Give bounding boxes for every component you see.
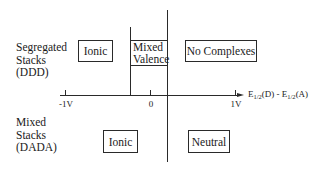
axis-label-subscript: 1/2 [287, 93, 295, 100]
row-label-line: (DADA) [16, 141, 57, 154]
row-label-line: Stacks [16, 54, 67, 67]
region-label: Neutral [192, 136, 226, 148]
x-axis-line [60, 95, 238, 96]
region-label-line: Valence [133, 53, 169, 65]
region-label: Ionic [109, 136, 133, 148]
region-ionic-segregated: Ionic [78, 40, 113, 62]
region-label: No Complexes [187, 45, 256, 57]
region-label: Ionic [84, 45, 108, 57]
tick-minus-1v [65, 90, 66, 95]
row-label-line: (DDD) [16, 66, 67, 79]
row-label-line: Segregated [16, 41, 67, 54]
tick-label: 1V [231, 99, 242, 109]
tick-0 [150, 90, 151, 95]
axis-label-part: (D) - E [262, 89, 288, 99]
region-ionic-mixed: Ionic [103, 130, 138, 153]
x-axis-arrow-icon [237, 93, 244, 97]
tick-label: 0 [149, 99, 154, 109]
region-no-complexes: No Complexes [185, 40, 257, 62]
axis-label-subscript: 1/2 [254, 93, 262, 100]
tick-1v [235, 90, 236, 95]
region-mixed-valence: Mixed Valence [130, 40, 168, 66]
region-label-line: Mixed [133, 41, 163, 53]
tick-label: -1V [59, 99, 73, 109]
row-label-line: Stacks [16, 129, 57, 142]
boundary-line-right [167, 10, 168, 162]
row-label-line: Mixed [16, 116, 57, 129]
row-label-mixed-stacks: Mixed Stacks (DADA) [16, 116, 57, 154]
region-neutral: Neutral [188, 130, 230, 153]
x-axis-label: E1/2(D) - E1/2(A) [248, 89, 308, 102]
diagram: Segregated Stacks (DDD) Mixed Stacks (DA… [0, 0, 322, 169]
row-label-segregated-stacks: Segregated Stacks (DDD) [16, 41, 67, 79]
axis-label-part: (A) [296, 89, 309, 99]
